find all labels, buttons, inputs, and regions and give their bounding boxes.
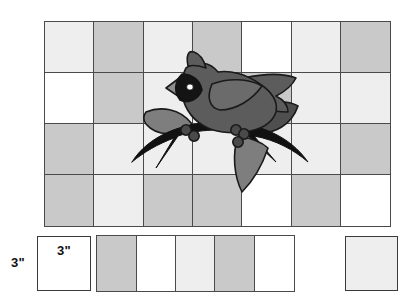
corner-square xyxy=(345,236,398,291)
quilt-patch xyxy=(291,72,342,125)
quilt-patch xyxy=(93,174,144,227)
quilt-patch xyxy=(291,21,342,74)
quilt-patch xyxy=(192,72,243,125)
quilt-patch xyxy=(192,21,243,74)
quilt-patch xyxy=(241,21,292,74)
quilt-patch xyxy=(340,123,391,176)
quilt-patch xyxy=(340,21,391,74)
quilt-patch xyxy=(241,72,292,125)
quilt-patch xyxy=(192,123,243,176)
bottom-square-strip xyxy=(97,236,294,291)
sample-square-width-label: 3" xyxy=(38,243,90,258)
quilt-patch xyxy=(143,21,194,74)
quilt-patch xyxy=(93,21,144,74)
bottom-strip-patch xyxy=(136,235,177,292)
quilt-patch xyxy=(241,123,292,176)
sample-square-height-label: 3" xyxy=(11,255,25,270)
bottom-strip-patch xyxy=(254,235,295,292)
bottom-strip-patch xyxy=(214,235,255,292)
quilt-patch xyxy=(93,72,144,125)
quilt-patch xyxy=(44,123,95,176)
quilt-patch xyxy=(291,123,342,176)
bottom-strip-patch xyxy=(175,235,216,292)
quilt-patch xyxy=(44,174,95,227)
quilt-grid xyxy=(45,22,390,226)
quilt-patch xyxy=(44,72,95,125)
bottom-strip-patch xyxy=(96,235,137,292)
quilt-patch xyxy=(44,21,95,74)
sample-square: 3" xyxy=(37,236,91,291)
quilt-block-diagram: 3" 3" xyxy=(0,0,417,296)
quilt-patch xyxy=(340,72,391,125)
quilt-patch xyxy=(192,174,243,227)
quilt-patch xyxy=(143,174,194,227)
quilt-patch xyxy=(143,72,194,125)
quilt-patch xyxy=(340,174,391,227)
quilt-patch xyxy=(241,174,292,227)
quilt-patch xyxy=(291,174,342,227)
quilt-patch xyxy=(93,123,144,176)
quilt-patch xyxy=(143,123,194,176)
